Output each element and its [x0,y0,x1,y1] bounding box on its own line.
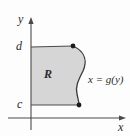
region-integration-diagram: y x d c R x = g(y) [0,0,130,136]
top-endpoint-dot [71,44,76,49]
bottom-endpoint-dot [77,103,82,108]
y-axis-arrowhead [28,17,33,24]
region-label-R: R [44,68,52,80]
x-axis-label: x [118,121,123,133]
tick-label-c: c [17,98,22,110]
tick-label-d: d [16,40,22,52]
curve-equation-label: x = g(y) [88,74,124,85]
y-axis-label: y [18,13,23,25]
